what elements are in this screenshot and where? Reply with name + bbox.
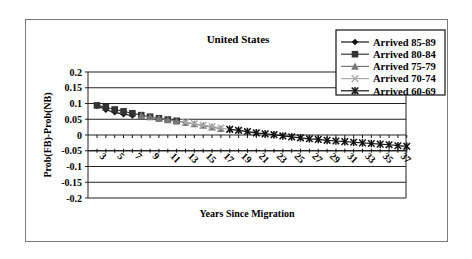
x-tick-label: 27	[310, 150, 325, 165]
legend-label: Arrived 60-69	[373, 86, 436, 97]
x-tick-label: 3	[98, 150, 109, 161]
series-group	[94, 102, 410, 150]
legend-label: Arrived 85-89	[373, 37, 436, 48]
series-line	[141, 115, 221, 128]
square-marker	[120, 108, 127, 115]
x-tick-label: 23	[275, 150, 290, 165]
series-arrived-75-79	[137, 112, 224, 132]
legend-label: Arrived 75-79	[373, 61, 436, 72]
x-tick-label: 11	[168, 150, 182, 164]
square-marker	[111, 106, 118, 113]
series-arrived-60-69	[226, 126, 410, 151]
x-tick-label: 17	[221, 150, 236, 165]
y-tick-label: -0.05	[61, 145, 82, 156]
x-tick-label: 21	[257, 150, 272, 165]
x-tick-label: 29	[328, 150, 343, 165]
x-tick-label: 35	[381, 150, 396, 165]
square-marker	[129, 110, 136, 117]
chart-title: United States	[207, 33, 270, 45]
square-marker	[103, 104, 110, 111]
legend-label: Arrived 70-74	[373, 73, 436, 84]
line-chart: United States 0.20.150.10.050-0.05-0.1-0…	[0, 0, 472, 259]
x-tick-label: 31	[345, 150, 360, 165]
square-marker	[352, 51, 359, 58]
y-tick-label: 0.15	[65, 82, 83, 93]
legend: Arrived 85-89Arrived 80-84Arrived 75-79A…	[336, 30, 445, 97]
y-tick-label: -0.1	[66, 161, 82, 172]
legend-label: Arrived 80-84	[373, 49, 436, 60]
y-tick-label: 0.05	[65, 114, 83, 125]
x-tick-label: 19	[239, 150, 254, 165]
y-axis-label: Prob(FB)-Prob(NB)	[42, 92, 54, 177]
x-tick-label: 9	[151, 150, 162, 161]
x-tick-label: 7	[133, 150, 144, 161]
x-tick-label: 13	[186, 150, 201, 165]
y-tick-label: -0.15	[61, 177, 82, 188]
y-tick-label: 0	[77, 130, 82, 141]
y-tick-label: 0.1	[70, 98, 83, 109]
x-tick-label: 15	[204, 150, 219, 165]
y-tick-label: 0.2	[70, 67, 83, 78]
square-marker	[94, 102, 101, 109]
x-axis: 35791113151719212325272931333537	[88, 135, 413, 165]
x-axis-label: Years Since Migration	[200, 208, 295, 219]
x-tick-label: 5	[115, 150, 126, 161]
y-tick-label: -0.2	[66, 193, 82, 204]
x-tick-label: 25	[292, 150, 307, 165]
x-tick-label: 33	[363, 150, 378, 165]
x-tick-label: 37	[398, 150, 413, 165]
